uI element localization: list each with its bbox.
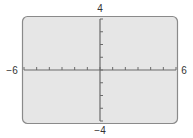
- y-min-label: −4: [94, 125, 106, 136]
- x-min-label: −6: [6, 65, 18, 76]
- y-max-label: 4: [97, 3, 103, 14]
- graphing-window: 4 −4 −6 6: [0, 0, 193, 138]
- x-max-label: 6: [181, 65, 187, 76]
